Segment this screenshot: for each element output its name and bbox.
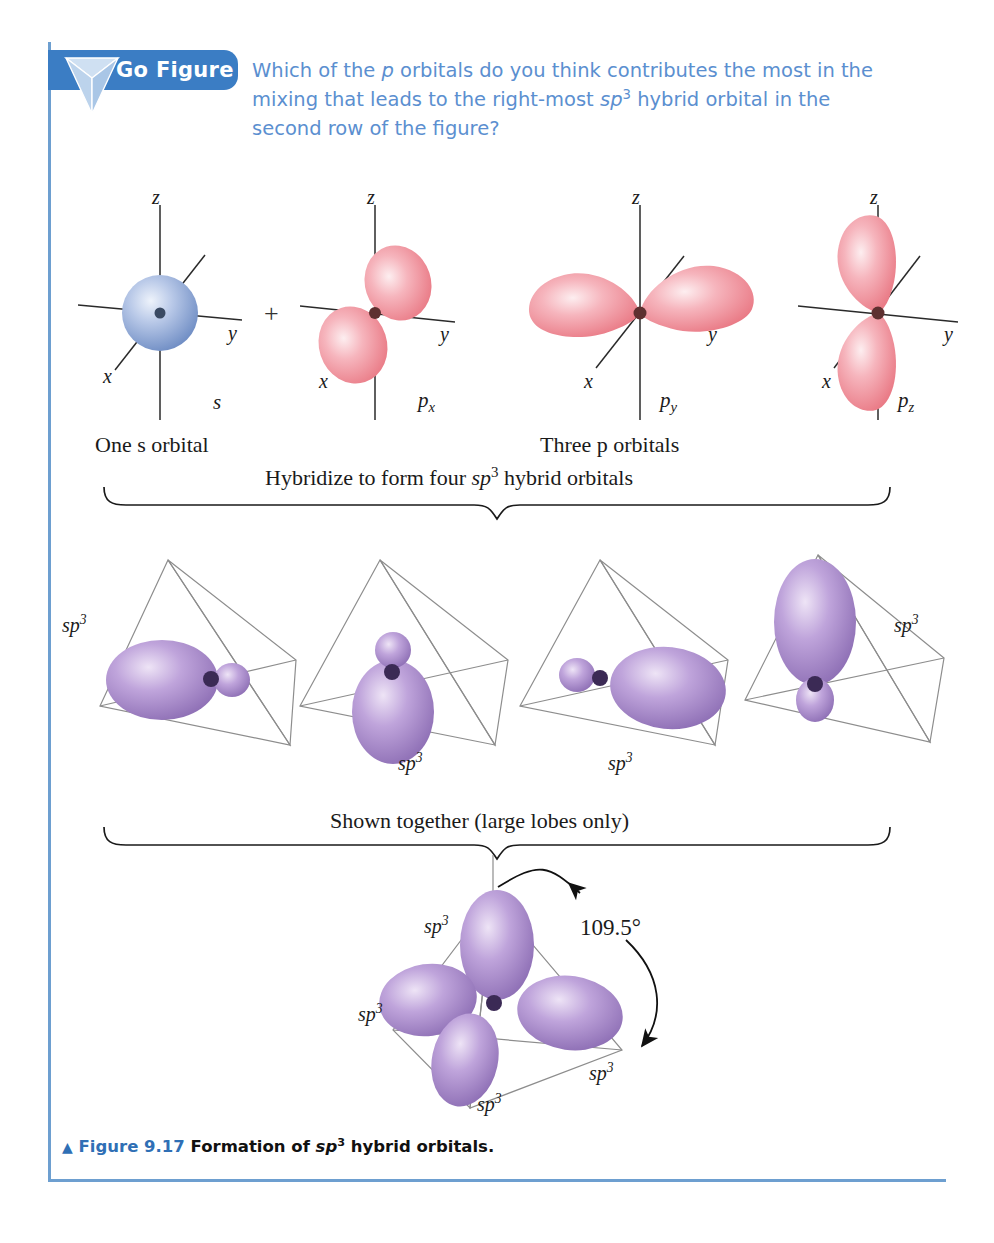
caption-figure-word: Figure	[79, 1137, 139, 1156]
caption-italic-sp: sp	[316, 1137, 338, 1156]
pz-orbital-name: pz	[898, 388, 914, 416]
sp3-label-3: sp3	[608, 752, 633, 775]
brace1-text-a: Hybridize to form four	[265, 465, 472, 490]
pz-name-sub: z	[909, 399, 915, 415]
py-axis-label-y: y	[708, 323, 717, 346]
s-axis-label-x: x	[103, 365, 112, 388]
sp3-label-4-sup: 3	[912, 612, 919, 627]
q-italic-sp: sp	[600, 88, 623, 111]
plus-sign: +	[264, 299, 279, 329]
py-orbital-name: py	[660, 388, 677, 416]
py-axis-label-z: z	[632, 186, 640, 209]
pz-axis-label-y: y	[944, 323, 953, 346]
sp3-label-2: sp3	[398, 752, 423, 775]
sp3-label-1: sp3	[62, 614, 87, 637]
caption-text-before: Formation of	[191, 1137, 316, 1156]
sp3-label-4: sp3	[894, 614, 919, 637]
px-orbital-name: px	[418, 388, 435, 416]
caption-text-after: hybrid orbitals.	[345, 1137, 494, 1156]
sp3-combined-label-2: sp3	[358, 1003, 383, 1026]
q-sup-3: 3	[623, 87, 631, 102]
go-figure-label: Go Figure	[116, 58, 234, 82]
px-name-sub: x	[429, 399, 436, 415]
pz-name-base: p	[898, 388, 909, 412]
brace1-italic: sp	[472, 465, 492, 490]
sp3-combined-label-4-base: sp	[589, 1062, 607, 1084]
caption-triangle-icon: ▲	[62, 1139, 73, 1155]
group-label-one-s-orbital: One s orbital	[95, 432, 209, 458]
py-name-sub: y	[671, 399, 678, 415]
go-figure-question: Which of the p orbitals do you think con…	[252, 56, 882, 143]
caption-number: 9.17	[144, 1137, 185, 1156]
sp3-label-3-sup: 3	[626, 750, 633, 765]
q-italic-p: p	[382, 59, 394, 82]
inverted-tetrahedron-icon	[62, 48, 122, 118]
sp3-label-1-base: sp	[62, 614, 80, 636]
s-axis-label-z: z	[152, 186, 160, 209]
sp3-combined-label-4-sup: 3	[607, 1060, 614, 1075]
sp3-combined-label-2-base: sp	[358, 1003, 376, 1025]
group-label-three-p-orbitals: Three p orbitals	[540, 432, 679, 458]
sp3-label-2-base: sp	[398, 752, 416, 774]
px-name-base: p	[418, 388, 429, 412]
s-axis-label-y: y	[228, 322, 237, 345]
sp3-label-1-sup: 3	[80, 612, 87, 627]
px-axis-label-x: x	[319, 370, 328, 393]
px-axis-label-y: y	[440, 323, 449, 346]
s-orbital-name: s	[213, 390, 221, 415]
sp3-combined-label-2-sup: 3	[376, 1001, 383, 1016]
q-text-1: Which of the	[252, 59, 382, 82]
sp3-combined-label-1-base: sp	[424, 915, 442, 937]
pz-axis-label-z: z	[870, 186, 878, 209]
sp3-label-2-sup: 3	[416, 750, 423, 765]
bond-angle-label: 109.5°	[580, 915, 641, 941]
sp3-label-4-base: sp	[894, 614, 912, 636]
figure-caption: ▲ Figure 9.17 Formation of sp3 hybrid or…	[62, 1137, 494, 1156]
brace-hybridize-label: Hybridize to form four sp3 hybrid orbita…	[265, 465, 633, 491]
brace1-text-b: hybrid orbitals	[499, 465, 633, 490]
brace1-sup: 3	[491, 464, 498, 480]
caption-sup: 3	[337, 1136, 345, 1149]
sp3-combined-label-1: sp3	[424, 915, 449, 938]
sp3-combined-label-4: sp3	[589, 1062, 614, 1085]
sp3-combined-label-3-sup: 3	[495, 1091, 502, 1106]
pz-axis-label-x: x	[822, 370, 831, 393]
sp3-label-3-base: sp	[608, 752, 626, 774]
py-axis-label-x: x	[584, 370, 593, 393]
sp3-combined-label-3-base: sp	[477, 1093, 495, 1115]
sp3-combined-label-1-sup: 3	[442, 913, 449, 928]
sp3-combined-label-3: sp3	[477, 1093, 502, 1116]
py-name-base: p	[660, 388, 671, 412]
figure-frame	[48, 42, 946, 1182]
px-axis-label-z: z	[367, 186, 375, 209]
brace-shown-together-label: Shown together (large lobes only)	[330, 808, 629, 834]
